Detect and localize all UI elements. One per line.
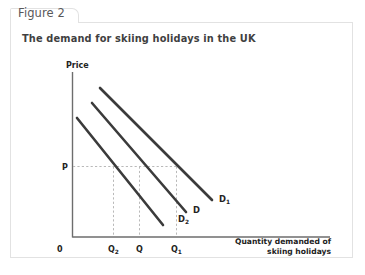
figure-subtitle: The demand for skiing holidays in the UK xyxy=(22,33,256,44)
figure-container: Figure 2 The demand for skiing holidays … xyxy=(0,0,365,275)
figure-tab-label: Figure 2 xyxy=(18,6,65,20)
y-axis-title: Price xyxy=(66,61,89,70)
figure-panel xyxy=(10,22,353,258)
